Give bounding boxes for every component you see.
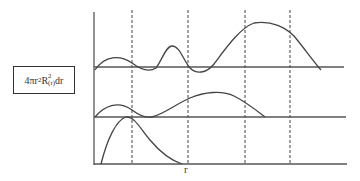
curve-top — [95, 22, 321, 72]
ylabel-suffix: dr — [55, 75, 63, 86]
curve-bottom — [101, 117, 182, 164]
dashed-guides — [132, 10, 290, 164]
ylabel-sub: (r) — [48, 80, 55, 87]
curve-middle — [95, 92, 265, 117]
ylabel-prefix: 4πr — [25, 75, 38, 86]
ylabel-mid: R — [41, 75, 48, 86]
x-axis-label: r — [184, 163, 188, 175]
y-axis-label-box: 4πr2 R2(r)dr — [13, 66, 75, 94]
